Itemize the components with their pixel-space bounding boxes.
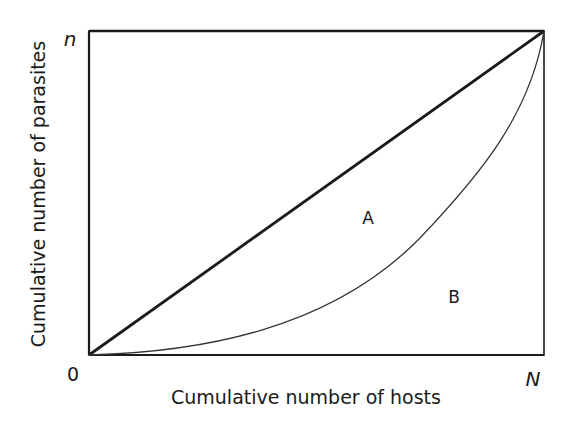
- x-max-label: N: [526, 367, 541, 391]
- region-b-label: B: [448, 287, 460, 307]
- equality-line: [89, 31, 544, 355]
- lorenz-diagram: A B n 0 N Cumulative number of hosts Cum…: [0, 0, 574, 424]
- origin-label: 0: [67, 363, 79, 385]
- region-a-label: A: [362, 208, 374, 228]
- y-max-label: n: [64, 27, 77, 51]
- x-axis-title: Cumulative number of hosts: [171, 386, 441, 408]
- y-axis-title: Cumulative number of parasites: [27, 41, 49, 347]
